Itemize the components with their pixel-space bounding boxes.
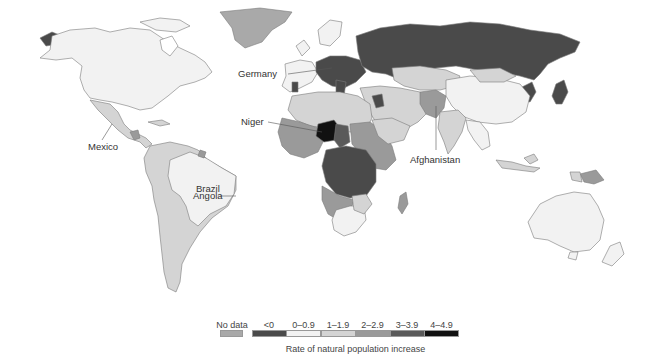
legend-bin-swatch	[355, 330, 390, 337]
legend-bin-label: 3–3.9	[390, 321, 424, 330]
region-russia	[356, 22, 580, 80]
region-india	[438, 110, 466, 154]
legend-title: Rate of natural population increase	[252, 344, 459, 354]
label-angola: Angola	[193, 191, 223, 201]
legend-bin-label: <0	[252, 321, 286, 330]
legend-bin-label: 0–0.9	[286, 321, 321, 330]
label-mexico: Mexico	[88, 142, 118, 152]
legend-bin-swatch	[321, 330, 356, 337]
legend-bin-label: 1–1.9	[321, 321, 355, 330]
world-map	[0, 0, 660, 310]
label-germany: Germany	[238, 69, 277, 79]
label-niger: Niger	[241, 117, 264, 127]
region-north-america	[40, 28, 212, 110]
legend-bin-swatch	[424, 330, 459, 337]
legend-bin-label: 2–2.9	[355, 321, 390, 330]
legend-no-data-swatch	[220, 330, 243, 337]
region-australia	[528, 192, 604, 252]
region-western-europe	[282, 60, 318, 92]
region-japan	[552, 80, 568, 104]
legend-bin-label: 4–4.9	[424, 321, 459, 330]
legend-bin-swatch	[252, 330, 287, 337]
legend-bin-swatch	[286, 330, 321, 337]
region-madagascar	[398, 192, 408, 214]
region-png	[580, 170, 604, 184]
legend-bin-swatch	[390, 330, 425, 337]
legend-no-data-label: No data	[212, 321, 252, 330]
region-greenland	[220, 8, 292, 48]
label-afghanistan: Afghanistan	[410, 155, 460, 165]
